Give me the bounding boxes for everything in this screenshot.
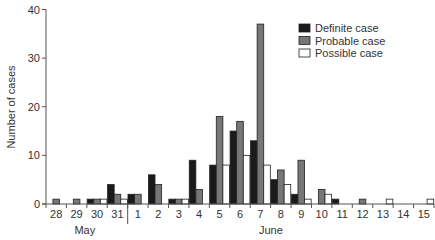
x-tick-label: 3: [176, 208, 182, 220]
month-label: May: [74, 224, 95, 236]
bar-definite-case: [87, 199, 94, 204]
x-tick-label: 1: [135, 208, 141, 220]
x-tick-label: 30: [91, 208, 103, 220]
bar-possible-case: [182, 199, 189, 204]
bar-possible-case: [284, 185, 291, 204]
bar-possible-case: [305, 199, 312, 204]
x-tick-label: 31: [111, 208, 123, 220]
bar-probable-case: [318, 189, 325, 204]
bar-definite-case: [189, 160, 196, 204]
y-tick-label: 10: [28, 149, 40, 161]
x-tick-label: 15: [418, 208, 430, 220]
bar-probable-case: [73, 199, 80, 204]
bar-probable-case: [135, 194, 142, 204]
bar-definite-case: [230, 131, 237, 204]
y-axis: 010203040: [28, 4, 46, 211]
bar-definite-case: [128, 194, 135, 204]
bar-probable-case: [53, 199, 60, 204]
x-tick-label: 14: [397, 208, 409, 220]
x-tick-label: 11: [336, 208, 347, 220]
bar-probable-case: [237, 121, 244, 204]
x-tick-label: 7: [257, 208, 263, 220]
bar-definite-case: [251, 141, 258, 204]
x-tick-label: 12: [356, 208, 368, 220]
x-tick-label: 10: [316, 208, 328, 220]
bar-definite-case: [210, 165, 217, 204]
x-tick-label: 29: [71, 208, 83, 220]
x-tick-label: 5: [217, 208, 223, 220]
bar-probable-case: [359, 199, 366, 204]
bar-possible-case: [223, 165, 230, 204]
y-tick-label: 20: [28, 101, 40, 113]
legend-label: Probable case: [315, 35, 385, 47]
bar-possible-case: [121, 199, 128, 204]
legend-swatch: [299, 49, 310, 57]
bar-definite-case: [148, 175, 155, 204]
bar-probable-case: [114, 194, 121, 204]
bar-probable-case: [278, 170, 285, 204]
bar-possible-case: [427, 199, 434, 204]
x-tick-label: 2: [155, 208, 161, 220]
x-tick-label: 13: [377, 208, 389, 220]
bar-probable-case: [298, 160, 305, 204]
x-tick-label: 6: [237, 208, 243, 220]
bar-definite-case: [291, 194, 298, 204]
bar-possible-case: [325, 194, 332, 204]
legend: Definite caseProbable casePossible case: [299, 22, 385, 59]
bar-probable-case: [155, 185, 162, 204]
bar-possible-case: [386, 199, 393, 204]
bar-definite-case: [271, 180, 278, 204]
bar-definite-case: [108, 185, 115, 204]
legend-label: Definite case: [315, 22, 379, 34]
month-label: June: [259, 224, 283, 236]
x-tick-label: 8: [278, 208, 284, 220]
legend-label: Possible case: [315, 47, 383, 59]
legend-swatch: [299, 24, 310, 32]
bar-definite-case: [332, 199, 339, 204]
x-tick-label: 4: [196, 208, 202, 220]
y-axis-title: Number of cases: [5, 65, 17, 149]
bar-probable-case: [257, 24, 264, 204]
bar-possible-case: [264, 165, 271, 204]
x-axis: 28293031123456789101112131415MayJune: [42, 204, 434, 236]
bar-probable-case: [196, 189, 203, 204]
y-tick-label: 40: [28, 4, 40, 16]
y-tick-label: 0: [34, 198, 40, 210]
legend-swatch: [299, 37, 310, 45]
bar-probable-case: [94, 199, 101, 204]
bar-possible-case: [100, 199, 107, 204]
x-tick-label: 28: [50, 208, 62, 220]
y-tick-label: 30: [28, 52, 40, 64]
bar-definite-case: [169, 199, 176, 204]
x-tick-label: 9: [298, 208, 304, 220]
bar-probable-case: [175, 199, 182, 204]
bar-chart: Number of cases 010203040 28293031123456…: [0, 0, 435, 240]
bar-probable-case: [216, 116, 223, 204]
bar-possible-case: [243, 155, 250, 204]
